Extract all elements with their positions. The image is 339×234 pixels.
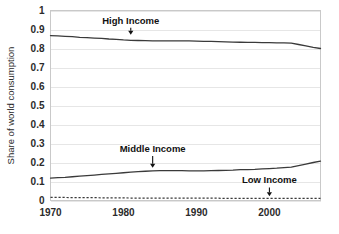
- chart-figure: 00.10.20.30.40.50.60.70.80.91 1970198019…: [0, 0, 339, 234]
- series-annotation-label: High Income: [102, 15, 159, 26]
- series-line-high-income: [51, 36, 321, 49]
- x-tick-label: 1990: [185, 207, 208, 218]
- y-tick-label: 0.8: [31, 43, 45, 54]
- y-tick-label: 0.2: [31, 157, 45, 168]
- y-tick-label: 0.9: [31, 24, 45, 35]
- y-tick-label: 0.5: [31, 100, 45, 111]
- plot-area-border: [51, 11, 321, 201]
- y-axis-tick-labels: 00.10.20.30.40.50.60.70.80.91: [31, 5, 45, 206]
- y-tick-label: 0.1: [31, 176, 45, 187]
- annotation-arrow-head: [267, 192, 272, 196]
- y-tick-label: 0.7: [31, 62, 45, 73]
- chart-canvas: 00.10.20.30.40.50.60.70.80.91 1970198019…: [0, 0, 339, 234]
- series-line-low-income: [51, 197, 321, 198]
- x-tick-label: 1970: [39, 207, 62, 218]
- y-tick-label: 1: [39, 5, 45, 16]
- y-tick-label: 0.6: [31, 81, 45, 92]
- x-tick-label: 2000: [258, 207, 281, 218]
- x-tick-label: 1980: [112, 207, 135, 218]
- gridlines-group: [51, 12, 321, 202]
- x-axis-tick-labels: 1970198019902000: [39, 207, 281, 218]
- y-axis-title: Share of world consumption: [5, 47, 16, 165]
- annotation-arrow-head: [128, 31, 133, 35]
- y-tick-label: 0.3: [31, 138, 45, 149]
- annotation-arrow-head: [150, 164, 155, 168]
- series-annotation-label: Low Income: [242, 174, 297, 185]
- y-tick-label: 0.4: [31, 119, 45, 130]
- series-annotation-label: Middle Income: [120, 143, 186, 154]
- y-tick-label: 0: [39, 195, 45, 206]
